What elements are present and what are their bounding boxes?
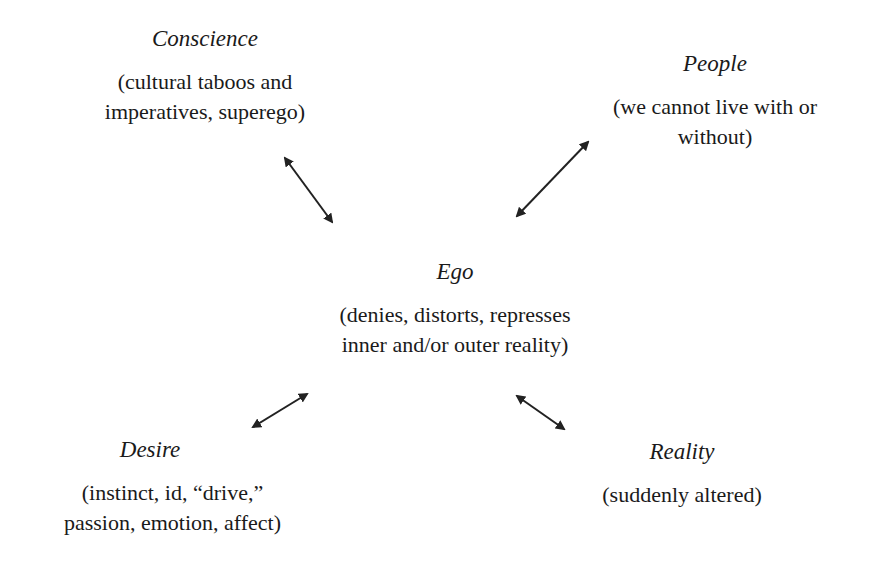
node-title: Ego — [280, 258, 630, 286]
node-line: inner and/or outer reality) — [280, 330, 630, 360]
node-people: People (we cannot live with or without) — [580, 50, 850, 152]
node-line: without) — [580, 122, 850, 152]
node-conscience: Conscience (cultural taboos and imperati… — [55, 25, 355, 127]
node-title: Reality — [547, 438, 817, 466]
node-title: Conscience — [55, 25, 355, 53]
node-reality: Reality (suddenly altered) — [547, 438, 817, 510]
node-line: (suddenly altered) — [547, 480, 817, 510]
arrow-desire-ego — [253, 394, 307, 427]
node-line: passion, emotion, affect) — [45, 508, 300, 538]
node-line: (we cannot live with or — [580, 92, 850, 122]
node-line: (instinct, id, “drive,” — [45, 478, 300, 508]
node-line: (denies, distorts, represses — [280, 300, 630, 330]
node-title: People — [580, 50, 850, 78]
node-title: Desire — [0, 436, 300, 464]
arrow-people-ego — [517, 142, 588, 216]
arrow-conscience-ego — [285, 158, 332, 222]
node-desire: Desire (instinct, id, “drive,” passion, … — [0, 436, 300, 538]
node-line: imperatives, superego) — [55, 97, 355, 127]
node-line: (cultural taboos and — [55, 67, 355, 97]
node-ego: Ego (denies, distorts, represses inner a… — [280, 258, 630, 360]
arrow-reality-ego — [517, 396, 564, 429]
